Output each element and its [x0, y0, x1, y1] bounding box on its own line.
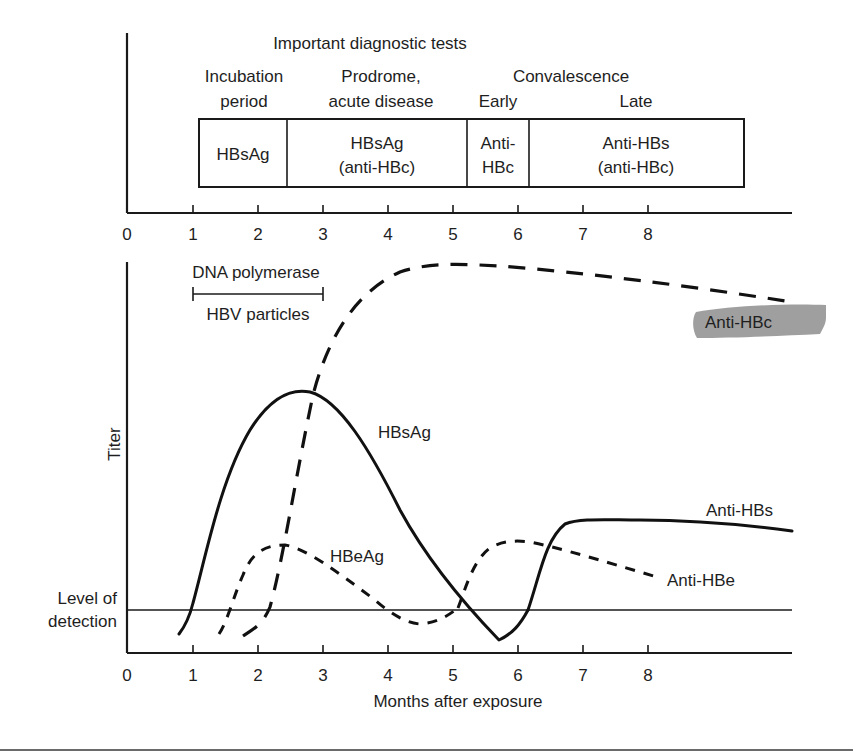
bottom-axis-ticks [193, 645, 648, 653]
annotation-range-bar [193, 287, 323, 301]
curve-hbsag [179, 391, 528, 640]
top-axis-ticks [193, 205, 648, 213]
svg-text:4: 4 [383, 666, 392, 685]
svg-text:5: 5 [448, 666, 457, 685]
label-hbeag: HBeAg [330, 547, 384, 566]
test-early-line1: Anti- [481, 134, 516, 153]
svg-text:3: 3 [318, 225, 327, 244]
phase-incubation-line1: Incubation [205, 67, 283, 86]
label-hbsag: HBsAg [378, 423, 431, 442]
diagnostic-tests-panel: Important diagnostic tests Incubation pe… [122, 33, 792, 244]
svg-text:3: 3 [318, 666, 327, 685]
detection-label-line2: detection [48, 612, 117, 631]
svg-text:1: 1 [188, 225, 197, 244]
detection-label-line1: Level of [57, 589, 117, 608]
annotation-dna-polymerase: DNA polymerase [192, 263, 320, 282]
label-anti-hbe: Anti-HBe [667, 571, 735, 590]
svg-text:6: 6 [513, 225, 522, 244]
phase-prodrome-line2: acute disease [329, 92, 434, 111]
phase-prodrome-line1: Prodrome, [341, 67, 420, 86]
svg-text:2: 2 [253, 666, 262, 685]
svg-text:5: 5 [448, 225, 457, 244]
curve-anti-hbe [458, 541, 660, 608]
svg-text:7: 7 [578, 666, 587, 685]
test-late-line1: Anti-HBs [602, 134, 669, 153]
svg-text:1: 1 [188, 666, 197, 685]
phase-incubation-line2: period [220, 92, 267, 111]
svg-text:8: 8 [643, 225, 652, 244]
tests-title: Important diagnostic tests [273, 34, 467, 53]
svg-text:8: 8 [643, 666, 652, 685]
hepatitis-b-serology-diagram: Important diagnostic tests Incubation pe… [0, 0, 853, 755]
svg-text:0: 0 [122, 225, 131, 244]
label-anti-hbc: Anti-HBc [705, 313, 773, 332]
test-prodrome-line1: HBsAg [351, 134, 404, 153]
label-anti-hbs: Anti-HBs [706, 501, 773, 520]
svg-text:0: 0 [122, 666, 131, 685]
curve-anti-hbs [528, 520, 792, 610]
titer-chart-panel: Titer Level of detection DNA polymerase … [48, 262, 826, 711]
bottom-axis-tick-labels: 0 1 2 3 4 5 6 7 8 [122, 666, 652, 685]
phase-convalescence: Convalescence [513, 67, 629, 86]
svg-text:6: 6 [513, 666, 522, 685]
svg-text:4: 4 [383, 225, 392, 244]
annotation-hbv-particles: HBV particles [207, 305, 310, 324]
test-incubation: HBsAg [217, 145, 270, 164]
svg-text:7: 7 [578, 225, 587, 244]
test-late-line2: (anti-HBc) [598, 158, 675, 177]
test-early-line2: HBc [482, 158, 515, 177]
phase-early: Early [479, 92, 518, 111]
phase-late: Late [619, 92, 652, 111]
svg-text:2: 2 [253, 225, 262, 244]
top-axis-tick-labels: 0 1 2 3 4 5 6 7 8 [122, 225, 652, 244]
test-prodrome-line2: (anti-HBc) [339, 158, 416, 177]
y-axis-label: Titer [105, 427, 124, 461]
x-axis-label: Months after exposure [373, 692, 542, 711]
